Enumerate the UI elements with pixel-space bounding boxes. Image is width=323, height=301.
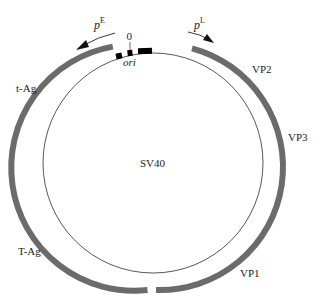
early-promoter-label: pE: [93, 16, 105, 32]
ori-feature-block-1: [115, 52, 122, 59]
gene-label-vp1: VP1: [240, 267, 260, 279]
gene-label-T-ag: T-Ag: [18, 245, 41, 257]
ori-feature-block-3: [138, 48, 152, 54]
late-promoter-label: pL: [193, 16, 205, 32]
gene-label-t-ag: t-Ag: [16, 82, 37, 94]
gene-label-vp2: VP2: [252, 63, 272, 75]
origin-label: 0: [127, 30, 133, 42]
gene-label-vp3: VP3: [288, 131, 308, 143]
genome-title: SV40: [140, 157, 166, 169]
sv40-genome-map: 0 ori pE pL t-Ag T-Ag VP2 VP3 VP1 SV40: [0, 0, 323, 301]
late-transcript-arc: [156, 48, 283, 290]
ori-label: ori: [123, 56, 136, 68]
late-promoter-arrow: [188, 32, 214, 43]
